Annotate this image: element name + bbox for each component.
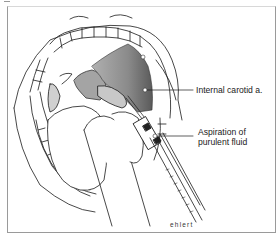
upper-lip-right-arc [110, 15, 132, 18]
label-aspiration-line2: purulent fluid [198, 137, 247, 147]
label-aspiration-line1: Aspiration of [198, 127, 246, 137]
carotid-marker [143, 88, 147, 92]
upper-lip-left-arc [70, 16, 88, 19]
label-internal-carotid: Internal carotid a. [196, 85, 262, 95]
oral-cavity-illustration [0, 0, 280, 242]
needle-tip-marker [153, 134, 157, 138]
artist-signature: ehlert [170, 221, 193, 228]
